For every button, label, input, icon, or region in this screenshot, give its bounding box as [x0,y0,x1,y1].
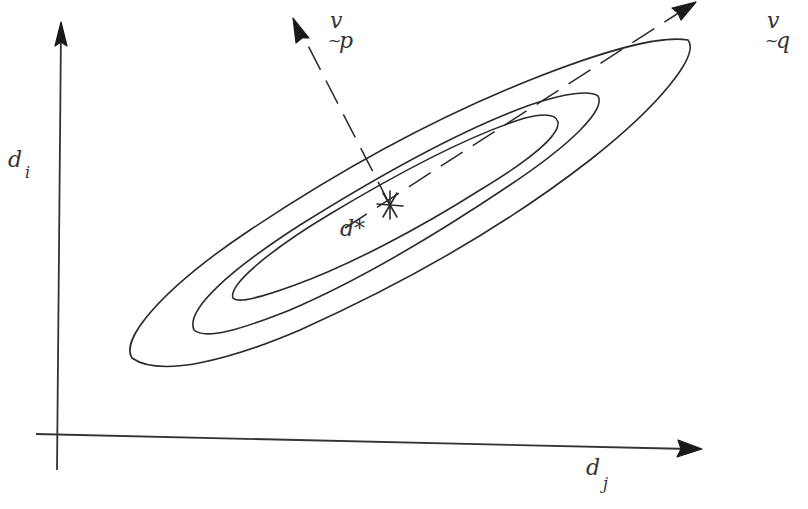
x-axis [36,434,702,457]
y-axis-line [57,30,61,470]
vq-label: v ~ q [765,8,790,53]
y-label-base: d [8,147,22,172]
x-label-base: d [586,455,600,480]
vq-label-sub: q [776,28,790,53]
x-axis-label: d j [586,455,608,493]
vp-arrowhead [293,18,309,43]
vp-label-sub: p [339,28,353,53]
vq-arrowhead [672,2,696,20]
y-label-sub: i [25,163,30,182]
y-axis [55,22,67,470]
y-axis-label: d i [8,147,30,182]
vector-vq [345,2,696,228]
x-axis-arrowhead [677,440,702,457]
contour-outer [130,39,690,366]
x-label-sub: j [600,474,608,493]
y-axis-arrowhead [55,22,67,46]
center-star-icon [377,191,403,219]
contour-diagram: d i d j d* v ~ p v ~ q [0,0,808,509]
x-axis-line [36,434,690,449]
center-label: d* [340,216,365,241]
vp-label: v ~ p [328,8,353,53]
